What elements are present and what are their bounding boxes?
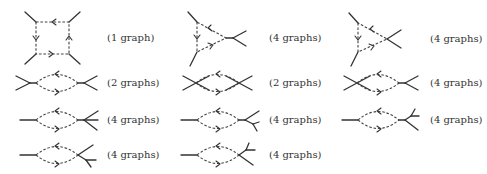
label-r1c2: (4 graphs) [269,32,321,44]
label-r1c3: (4 graphs) [430,33,482,45]
graph-bubble-line-trifork [20,108,98,132]
graph-box [25,12,80,64]
graph-triangle-cross [349,13,401,66]
graphs-canvas [0,0,487,174]
label-r2c3: (4 graphs) [430,77,482,89]
graph-triangle-fork [188,12,246,66]
label-r1c1: (1 graph) [107,32,154,44]
graph-bubble-fork-fork [16,71,97,95]
label-r4c2: (4 graphs) [269,149,321,161]
graph-bubble-line-trifork-2 [181,108,259,132]
label-r2c1: (2 graphs) [107,77,159,89]
label-r4c1: (4 graphs) [107,149,159,161]
label-r2c2: (2 graphs) [269,77,321,89]
label-r3c3: (4 graphs) [430,114,482,126]
label-r3c2: (4 graphs) [269,114,321,126]
graph-bubble-cross-cross [183,71,252,95]
label-r3c1: (4 graphs) [107,114,159,126]
graph-bubble-line-vertex-fork-up [181,143,255,167]
graph-bubble-line-trifork-3 [342,108,419,132]
graph-bubble-cross-fork [344,71,418,95]
graph-bubble-line-vertex-fork-down [20,143,96,167]
